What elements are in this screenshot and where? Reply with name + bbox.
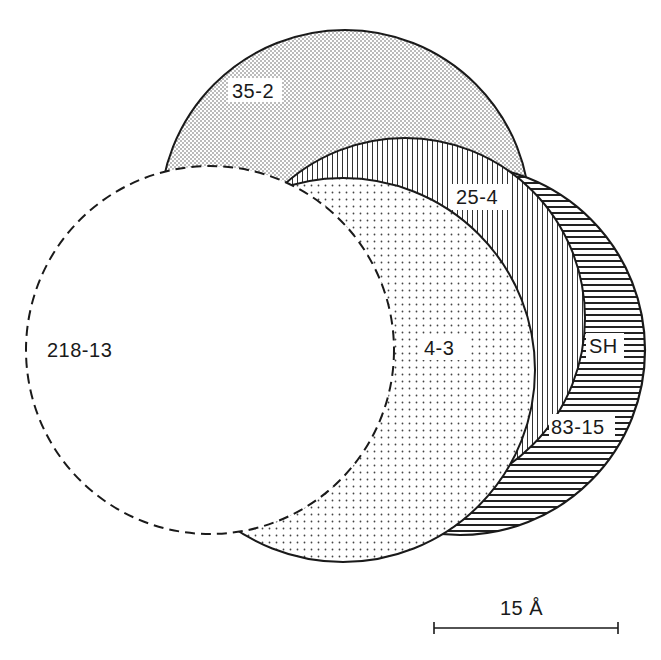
scale-bar: 15 Å: [434, 597, 618, 634]
scale-bar-label: 15 Å: [500, 597, 543, 619]
label-4-3-text: 4-3: [424, 337, 454, 359]
label-4-3: 4-3: [421, 336, 467, 360]
label-sh-text: SH: [589, 335, 618, 357]
label-25-4: 25-4: [452, 184, 512, 210]
label-35-2: 35-2: [228, 78, 282, 102]
overlap-diagram: 35-2 25-4 SH 83-15 4-3 218-13 15 Å: [0, 0, 661, 660]
label-35-2-text: 35-2: [232, 80, 274, 102]
label-sh: SH: [586, 333, 624, 359]
label-83-15: 83-15: [549, 414, 615, 440]
label-83-15-text: 83-15: [551, 416, 605, 438]
label-218-13: 218-13: [47, 339, 112, 361]
label-25-4-text: 25-4: [456, 186, 498, 208]
label-218-13-text: 218-13: [47, 339, 112, 361]
